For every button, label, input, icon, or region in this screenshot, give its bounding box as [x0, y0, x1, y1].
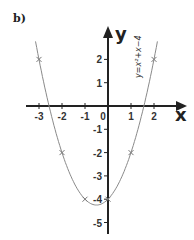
y-axis-label: y: [115, 23, 127, 44]
parabola-chart: xy-3-2-112021-1-2-3-4-5y=x²+x−4: [0, 0, 194, 240]
x-tick-label: 2: [151, 111, 157, 122]
x-tick-label: -2: [58, 111, 67, 122]
y-tick-label: 2: [96, 54, 102, 65]
equation-label: y=x²+x−4: [134, 35, 143, 79]
y-axis-arrow-icon: [103, 26, 113, 38]
x-axis-label: x: [175, 104, 187, 125]
origin-label: 0: [100, 111, 106, 122]
data-point-marker-icon: [83, 197, 88, 202]
data-point-marker-icon: [129, 150, 134, 155]
x-tick-label: -3: [35, 111, 44, 122]
y-tick-label: 1: [96, 78, 102, 89]
y-tick-label: -4: [93, 194, 102, 205]
data-point-marker-icon: [60, 150, 65, 155]
y-tick-label: -1: [93, 124, 102, 135]
x-tick-label: 1: [128, 111, 134, 122]
y-tick-label: -2: [93, 148, 102, 159]
y-tick-label: -5: [93, 218, 102, 229]
x-tick-label: -1: [81, 111, 90, 122]
y-tick-label: -3: [93, 171, 102, 182]
